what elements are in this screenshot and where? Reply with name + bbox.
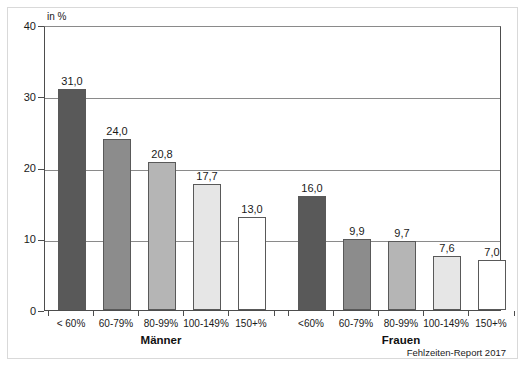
x-axis-tick <box>93 311 94 316</box>
group-label-männer: Männer <box>57 335 265 347</box>
x-axis-tick-label: 150+% <box>463 319 519 329</box>
x-axis-tick <box>48 311 49 316</box>
x-axis-tick <box>183 311 184 316</box>
y-axis-tick-label-text: 0 <box>10 306 36 317</box>
y-axis-tick-label-text: 40 <box>10 21 36 32</box>
x-axis-tick-label: 150+% <box>223 319 279 329</box>
y-axis-tick-label: 10 <box>10 234 38 245</box>
bar-value-label: 17,7 <box>184 171 230 182</box>
bar <box>193 184 221 310</box>
x-axis-tick <box>468 311 469 316</box>
x-axis-tick <box>378 311 379 316</box>
bar <box>298 196 326 310</box>
bar <box>478 260 506 310</box>
x-axis-tick <box>274 311 275 316</box>
bar <box>148 162 176 310</box>
bar-value-label: 24,0 <box>94 126 140 137</box>
x-axis-tick <box>333 311 334 316</box>
x-axis-tick <box>228 311 229 316</box>
bar-value-label: 7,6 <box>424 243 470 254</box>
bar <box>433 256 461 310</box>
bar-value-label: 16,0 <box>289 183 335 194</box>
bar-value-label: 13,0 <box>229 204 275 215</box>
chart-figure: in % 010203040 31,024,020,817,713,016,09… <box>0 0 526 370</box>
group-label-frauen: Frauen <box>297 335 505 347</box>
bar-value-label: 9,7 <box>379 228 425 239</box>
bar-value-label: 31,0 <box>49 76 95 87</box>
y-axis-tick-label-text: 10 <box>10 234 36 245</box>
y-axis-tick-label: 20 <box>10 163 38 174</box>
gridline <box>45 98 500 99</box>
x-axis-tick <box>514 311 515 316</box>
y-axis-tick-label-text: 30 <box>10 92 36 103</box>
bar <box>388 241 416 310</box>
x-axis-tick <box>138 311 139 316</box>
bar-value-label: 20,8 <box>139 149 185 160</box>
bar <box>238 217 266 310</box>
y-axis-tick-label: 0 <box>10 306 38 317</box>
source-note: Fehlzeiten-Report 2017 <box>407 348 506 358</box>
bar-value-label: 7,0 <box>469 247 515 258</box>
y-axis-tick-label: 30 <box>10 92 38 103</box>
plot-area: 31,024,020,817,713,016,09,99,77,67,0 <box>44 26 501 311</box>
y-axis-tick-label: 40 <box>10 21 38 32</box>
bar <box>103 139 131 310</box>
bar-value-label: 9,9 <box>334 226 380 237</box>
bar <box>343 239 371 310</box>
x-axis-tick <box>423 311 424 316</box>
bar <box>58 89 86 310</box>
y-axis-tick <box>38 311 44 312</box>
y-axis-unit-label: in % <box>47 12 66 22</box>
x-axis-tick <box>288 311 289 316</box>
y-axis-tick-label-text: 20 <box>10 163 36 174</box>
